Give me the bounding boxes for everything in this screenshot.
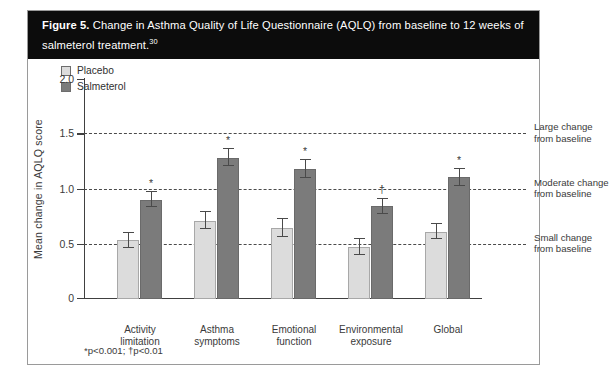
errorcap-bottom-placebo-activity-limitation — [123, 247, 134, 248]
reference-label-moderate: Moderate change from baseline — [534, 177, 609, 200]
errorcap-top-salmeterol-activity-limitation — [146, 191, 157, 192]
bar-salmeterol-activity-limitation — [140, 200, 162, 300]
bar-placebo-asthma-symptoms — [194, 221, 216, 300]
bar-salmeterol-global — [448, 177, 470, 299]
y-axis-title: Mean change in AQLQ score — [32, 119, 44, 259]
x-category-label-asthma-symptoms: Asthma symptoms — [194, 324, 240, 349]
figure-title-banner: Figure 5. Change in Asthma Quality of Li… — [28, 11, 539, 59]
errorcap-top-placebo-emotional-function — [277, 218, 288, 219]
x-category-activity-limitation-line1: Activity — [120, 324, 159, 336]
significance-marker-environmental-exposure: † — [379, 183, 385, 195]
bar-salmeterol-environmental-exposure — [371, 206, 393, 299]
x-category-environmental-exposure-line2: exposure — [339, 336, 403, 348]
y-tick-label-05: 0.5 — [59, 238, 74, 250]
errorcap-bottom-placebo-emotional-function — [277, 236, 288, 237]
x-category-label-emotional-function: Emotional function — [272, 324, 316, 349]
x-category-label-global: Global — [434, 324, 463, 336]
bar-placebo-environmental-exposure — [348, 247, 370, 299]
bar-placebo-activity-limitation — [117, 240, 139, 299]
significance-marker-emotional-function: * — [303, 145, 307, 157]
chart-footnote: *p<0.001; †p<0.01 — [84, 345, 163, 356]
errorcap-bottom-salmeterol-emotional-function — [300, 177, 311, 178]
errorbar-salmeterol-activity-limitation — [151, 192, 152, 208]
reference-label-moderate-line2: from baseline — [534, 189, 609, 201]
errorcap-top-salmeterol-global — [454, 168, 465, 169]
errorbar-placebo-activity-limitation — [128, 233, 129, 249]
errorcap-top-salmeterol-emotional-function — [300, 159, 311, 160]
x-category-asthma-symptoms-line1: Asthma — [194, 324, 240, 336]
y-tick-10 — [77, 189, 84, 190]
y-tick-label-15: 1.5 — [59, 127, 74, 139]
y-tick-05 — [77, 244, 84, 245]
x-category-asthma-symptoms-line2: symptoms — [194, 336, 240, 348]
errorcap-bottom-salmeterol-asthma-symptoms — [223, 165, 234, 166]
errorbar-placebo-asthma-symptoms — [205, 212, 206, 230]
x-category-global-line1: Global — [434, 324, 463, 336]
significance-marker-activity-limitation: * — [149, 177, 153, 189]
reference-label-small: Small change from baseline — [534, 232, 592, 255]
errorcap-bottom-salmeterol-environmental-exposure — [377, 213, 388, 214]
errorcap-top-salmeterol-asthma-symptoms — [223, 148, 234, 149]
figure-label: Figure 5. — [42, 19, 90, 31]
chart-axes: Mean change in AQLQ score 0 0.5 1.0 1.5 … — [84, 78, 469, 299]
reference-label-small-line1: Small change — [534, 232, 592, 244]
bar-salmeterol-asthma-symptoms — [217, 158, 239, 299]
errorcap-bottom-salmeterol-activity-limitation — [146, 206, 157, 207]
errorcap-top-placebo-environmental-exposure — [354, 238, 365, 239]
x-category-label-environmental-exposure: Environmental exposure — [339, 324, 403, 349]
errorbar-placebo-environmental-exposure — [359, 239, 360, 255]
bar-placebo-global — [425, 232, 447, 299]
y-tick-15 — [77, 133, 84, 134]
reference-label-moderate-line1: Moderate change — [534, 177, 609, 189]
errorcap-top-placebo-global — [431, 223, 442, 224]
y-tick-label-10: 1.0 — [59, 183, 74, 195]
reference-label-large: Large change from baseline — [534, 122, 593, 145]
chart-plot-area: Placebo Salmeterol Mean change in AQLQ s… — [28, 59, 539, 366]
y-tick-20 — [77, 79, 84, 80]
errorbar-salmeterol-asthma-symptoms — [228, 149, 229, 167]
errorcap-top-salmeterol-environmental-exposure — [377, 198, 388, 199]
x-category-environmental-exposure-line1: Environmental — [339, 324, 403, 336]
errorbar-salmeterol-global — [459, 169, 460, 187]
reference-label-large-line1: Large change — [534, 122, 593, 134]
figure-card: Figure 5. Change in Asthma Quality of Li… — [27, 10, 540, 365]
errorbar-placebo-global — [436, 224, 437, 240]
significance-marker-asthma-symptoms: * — [226, 134, 230, 146]
reference-line-large — [84, 133, 526, 134]
bar-salmeterol-emotional-function — [294, 169, 316, 299]
bar-placebo-emotional-function — [271, 228, 293, 299]
reference-label-small-line2: from baseline — [534, 244, 592, 256]
errorcap-bottom-placebo-global — [431, 238, 442, 239]
errorcap-bottom-placebo-environmental-exposure — [354, 254, 365, 255]
errorbar-salmeterol-emotional-function — [305, 160, 306, 178]
errorcap-top-placebo-activity-limitation — [123, 232, 134, 233]
errorbar-salmeterol-environmental-exposure — [382, 199, 383, 215]
errorcap-top-placebo-asthma-symptoms — [200, 211, 211, 212]
y-tick-0 — [77, 298, 84, 299]
figure-caption: Change in Asthma Quality of Life Questio… — [42, 19, 524, 50]
y-tick-label-0: 0 — [68, 292, 74, 304]
figure-title-text: Figure 5. Change in Asthma Quality of Li… — [42, 18, 525, 53]
significance-marker-global: * — [457, 154, 461, 166]
errorbar-placebo-emotional-function — [282, 219, 283, 237]
x-category-emotional-function-line2: function — [272, 336, 316, 348]
x-category-emotional-function-line1: Emotional — [272, 324, 316, 336]
figure-reference: 30 — [149, 37, 157, 46]
reference-label-large-line2: from baseline — [534, 133, 593, 145]
errorcap-bottom-salmeterol-global — [454, 185, 465, 186]
y-tick-label-20: 2.0 — [59, 73, 74, 85]
legend-label-placebo: Placebo — [77, 65, 114, 76]
errorcap-bottom-placebo-asthma-symptoms — [200, 228, 211, 229]
